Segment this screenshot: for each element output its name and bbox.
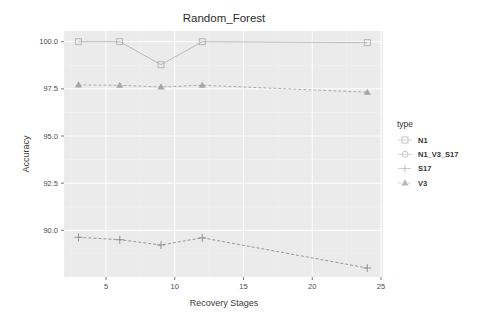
legend-title: type <box>397 119 413 129</box>
legend-item-s17: S17 <box>398 164 431 173</box>
chart-title: Random_Forest <box>183 12 266 24</box>
y-tick-label: 92.5 <box>43 179 58 188</box>
x-tick-label: 5 <box>104 282 108 291</box>
legend-key-plus-icon <box>401 165 409 173</box>
y-tick-label: 90.0 <box>43 226 58 235</box>
plot-panel <box>64 31 383 277</box>
legend-item-n1: N1 <box>398 136 428 145</box>
y-axis-title: Accuracy <box>21 135 31 173</box>
legend-label: N1 <box>418 136 428 145</box>
x-tick-label: 15 <box>239 282 247 291</box>
x-axis-title: Recovery Stages <box>190 298 259 308</box>
legend: type N1N1_V3_S17S17V3 <box>397 119 458 188</box>
x-tick-label: 20 <box>308 282 316 291</box>
y-axis: 90.092.595.097.5100.0 <box>39 37 64 235</box>
legend-label: V3 <box>418 179 427 188</box>
line-chart: Random_Forest 90.092.595.097.5100.0 5101… <box>0 0 480 323</box>
x-tick-label: 10 <box>171 282 179 291</box>
legend-key-triangle-icon <box>401 179 408 185</box>
legend-label: S17 <box>418 164 431 173</box>
legend-label: N1_V3_S17 <box>418 150 458 159</box>
legend-item-v3: V3 <box>398 179 427 188</box>
triangle-marker <box>401 179 408 185</box>
y-tick-label: 95.0 <box>43 132 58 141</box>
x-tick-label: 25 <box>377 282 385 291</box>
y-tick-label: 97.5 <box>43 84 58 93</box>
legend-item-n1_v3_s17: N1_V3_S17 <box>398 150 458 159</box>
y-tick-label: 100.0 <box>39 37 58 46</box>
x-axis: 510152025 <box>104 277 385 291</box>
